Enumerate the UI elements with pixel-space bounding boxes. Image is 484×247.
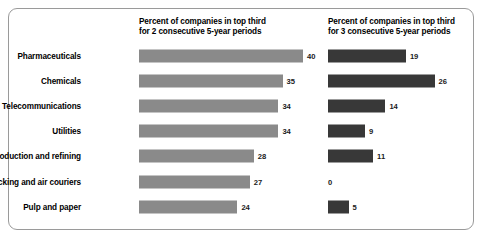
chart-row: Oil production and refining2811: [9, 144, 473, 169]
chart-row: Trucking and air couriers270: [9, 169, 473, 194]
category-label: Pharmaceuticals: [17, 51, 81, 60]
column-header-right: Percent of companies in top third for 3 …: [328, 17, 455, 38]
bar-right: [328, 150, 373, 163]
column-header-right-line1: Percent of companies in top third: [328, 17, 455, 27]
bar-value-left: 24: [241, 202, 249, 211]
bar-group-right: 5: [328, 200, 357, 213]
bar-value-right: 5: [353, 202, 357, 211]
bar-group-right: 9: [328, 125, 373, 138]
bar-value-right: 19: [410, 51, 418, 60]
bar-right: [328, 99, 385, 112]
category-label: Telecommunications: [2, 101, 81, 110]
bar-group-left: 40: [139, 49, 315, 62]
column-headers: Percent of companies in top third for 2 …: [9, 9, 473, 43]
bar-group-left: 24: [139, 200, 250, 213]
bar-left: [139, 125, 278, 138]
category-label: Chemicals: [41, 76, 81, 85]
bar-group-right: 19: [328, 49, 418, 62]
chart-row: Chemicals3526: [9, 68, 473, 93]
column-header-right-line2: for 3 consecutive 5-year periods: [328, 27, 455, 37]
bar-left: [139, 49, 303, 62]
column-header-left-line2: for 2 consecutive 5-year periods: [139, 27, 266, 37]
bar-group-right: 0: [328, 175, 332, 188]
category-label: Trucking and air couriers: [0, 177, 81, 186]
bar-group-left: 28: [139, 150, 266, 163]
bar-right: [328, 49, 406, 62]
bar-value-left: 34: [282, 127, 290, 136]
bar-value-left: 34: [282, 101, 290, 110]
bar-group-left: 35: [139, 74, 295, 87]
bar-group-left: 34: [139, 125, 291, 138]
chart-rows: Pharmaceuticals4019Chemicals3526Telecomm…: [9, 43, 473, 219]
category-label: Oil production and refining: [0, 152, 81, 161]
bar-left: [139, 175, 250, 188]
chart-row: Pharmaceuticals4019: [9, 43, 473, 68]
category-label: Pulp and paper: [23, 202, 81, 211]
bar-value-right: 9: [369, 127, 373, 136]
bar-left: [139, 150, 254, 163]
category-label: Utilities: [52, 127, 81, 136]
bar-group-right: 14: [328, 99, 398, 112]
bar-value-right: 14: [389, 101, 397, 110]
bar-group-right: 26: [328, 74, 447, 87]
chart-row: Utilities349: [9, 119, 473, 144]
bar-value-right: 26: [439, 76, 447, 85]
bar-value-left: 28: [258, 152, 266, 161]
bar-value-right: 0: [328, 177, 332, 186]
bar-value-left: 35: [287, 76, 295, 85]
bar-left: [139, 99, 278, 112]
column-header-left: Percent of companies in top third for 2 …: [139, 17, 266, 38]
bar-value-left: 40: [307, 51, 315, 60]
bar-group-right: 11: [328, 150, 385, 163]
bar-group-left: 34: [139, 99, 291, 112]
chart-panel: Percent of companies in top third for 2 …: [8, 8, 474, 230]
bar-value-left: 27: [254, 177, 262, 186]
bar-group-left: 27: [139, 175, 262, 188]
bar-right: [328, 200, 349, 213]
column-header-left-line1: Percent of companies in top third: [139, 17, 266, 27]
bar-right: [328, 125, 365, 138]
bar-right: [328, 74, 435, 87]
bar-left: [139, 74, 283, 87]
chart-row: Telecommunications3414: [9, 93, 473, 118]
bar-value-right: 11: [377, 152, 385, 161]
bar-left: [139, 200, 237, 213]
chart-row: Pulp and paper245: [9, 194, 473, 219]
